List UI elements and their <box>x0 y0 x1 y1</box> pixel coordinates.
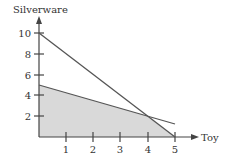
svg-text:3: 3 <box>117 144 123 155</box>
x-tick-labels: 1 2 3 4 5 <box>63 144 178 155</box>
x-axis-label: Toy <box>201 132 219 143</box>
svg-text:2: 2 <box>90 144 96 155</box>
svg-text:1: 1 <box>63 144 69 155</box>
svg-text:8: 8 <box>25 49 31 60</box>
x-axis-arrow-icon <box>191 134 199 140</box>
y-tick-labels: 2 4 6 8 10 <box>18 28 31 122</box>
svg-text:5: 5 <box>172 144 178 155</box>
feasible-region <box>39 85 175 137</box>
chart: 1 2 3 4 5 2 4 6 8 10 Toy Silverware <box>0 0 231 166</box>
y-axis-arrow-icon <box>36 16 42 24</box>
svg-text:2: 2 <box>25 111 31 122</box>
y-axis-label: Silverware <box>13 4 68 15</box>
svg-text:4: 4 <box>25 90 31 101</box>
svg-text:10: 10 <box>18 28 31 39</box>
svg-text:6: 6 <box>25 70 31 81</box>
svg-text:4: 4 <box>145 144 151 155</box>
